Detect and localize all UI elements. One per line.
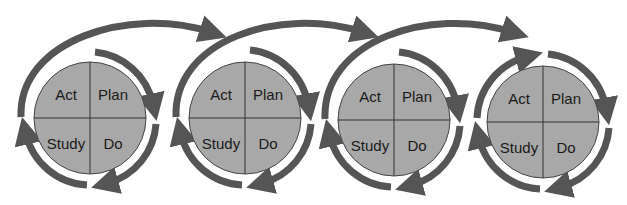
quadrant-act: Act (210, 86, 233, 103)
quadrant-plan: Plan (253, 86, 283, 103)
quadrant-do: Do (556, 139, 575, 156)
pdsa-cycle-2: Act Plan Study Do (176, 23, 362, 185)
quadrant-study: Study (500, 139, 539, 156)
quadrant-act: Act (359, 88, 382, 105)
pdsa-cycle-4: Act Plan Study Do (477, 54, 609, 189)
quadrant-do: Do (407, 137, 426, 154)
quadrant-study: Study (47, 135, 86, 152)
quadrant-act: Act (508, 90, 531, 107)
quadrant-plan: Plan (402, 88, 432, 105)
quadrant-act: Act (55, 86, 78, 103)
quadrant-study: Study (202, 135, 241, 152)
pdsa-diagram: Act Plan Study Do Act Plan Study Do Act … (0, 0, 627, 205)
pdsa-cycle-3: Act Plan Study Do (325, 23, 512, 187)
quadrant-do: Do (103, 135, 122, 152)
quadrant-plan: Plan (98, 86, 128, 103)
quadrant-plan: Plan (551, 90, 581, 107)
quadrant-do: Do (258, 135, 277, 152)
pdsa-cycle-1: Act Plan Study Do (21, 23, 210, 185)
quadrant-study: Study (351, 137, 390, 154)
